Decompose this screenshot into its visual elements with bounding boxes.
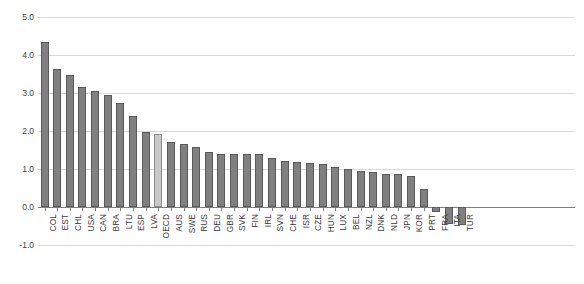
bar (66, 75, 74, 207)
x-tick-mark (323, 207, 324, 211)
bar (104, 95, 112, 207)
bar (91, 91, 99, 207)
x-tick-label: SWE (187, 214, 197, 233)
x-tick-label: NZL (364, 214, 374, 230)
x-tick-label: FIN (250, 214, 260, 228)
x-tick-mark (398, 207, 399, 211)
bar (369, 172, 377, 207)
x-tick-mark (335, 207, 336, 211)
x-tick-label: BEL (351, 214, 361, 230)
x-tick-label: CZE (313, 214, 323, 231)
x-tick-label: DNK (376, 214, 386, 232)
x-tick-mark (70, 207, 71, 211)
x-tick-mark (285, 207, 286, 211)
x-tick-label: SVK (237, 214, 247, 231)
bar-chart: 5.04.03.02.01.00.0-1.0 COLESTCHLUSACANBR… (0, 0, 584, 284)
x-tick-label: JPN (402, 214, 412, 230)
bar (192, 147, 200, 207)
x-tick-mark (247, 207, 248, 211)
x-tick-label: COL (48, 214, 58, 231)
x-tick-label: CAN (98, 214, 108, 232)
bar (180, 144, 188, 207)
bar (142, 132, 150, 207)
x-tick-label: LVA (149, 214, 159, 229)
bar (167, 142, 175, 207)
y-axis-labels: 5.04.03.02.01.00.0-1.0 (0, 17, 34, 245)
x-tick-mark (82, 207, 83, 211)
bar (255, 154, 263, 207)
x-tick-mark (361, 207, 362, 211)
bar (394, 174, 402, 207)
x-tick-label: OECD (161, 214, 171, 238)
x-tick-mark (449, 207, 450, 211)
bar (293, 162, 301, 207)
x-tick-mark (209, 207, 210, 211)
x-tick-label: ITA (452, 214, 462, 227)
y-tick-label: 2.0 (0, 126, 34, 136)
y-tick-label: 4.0 (0, 50, 34, 60)
y-tick-label: 3.0 (0, 88, 34, 98)
bar (407, 176, 415, 207)
x-tick-mark (133, 207, 134, 211)
x-tick-label: LTU (124, 214, 134, 229)
x-tick-mark (196, 207, 197, 211)
bar (78, 87, 86, 207)
x-tick-mark (297, 207, 298, 211)
x-tick-mark (424, 207, 425, 211)
bar (41, 42, 49, 207)
y-tick-label: 1.0 (0, 164, 34, 174)
x-tick-mark (146, 207, 147, 211)
y-tick-label: 0.0 (0, 202, 34, 212)
x-tick-label: ESP (136, 214, 146, 231)
x-tick-mark (234, 207, 235, 211)
x-tick-mark (411, 207, 412, 211)
bar (357, 171, 365, 207)
bar (268, 158, 276, 207)
x-tick-label: LUX (338, 214, 348, 230)
x-axis-ticks (38, 207, 575, 213)
bar (344, 169, 352, 207)
x-tick-label: TUR (465, 214, 475, 231)
x-tick-label: DEU (212, 214, 222, 232)
x-tick-label: PRT (427, 214, 437, 231)
x-tick-mark (436, 207, 437, 211)
x-tick-label: FRA (440, 214, 450, 231)
x-tick-mark (171, 207, 172, 211)
bar (243, 154, 251, 207)
x-tick-mark (95, 207, 96, 211)
x-tick-mark (259, 207, 260, 211)
x-tick-mark (310, 207, 311, 211)
x-tick-mark (158, 207, 159, 211)
bar (382, 174, 390, 207)
x-tick-mark (462, 207, 463, 211)
x-tick-mark (373, 207, 374, 211)
x-tick-mark (348, 207, 349, 211)
x-tick-label: IRL (263, 214, 273, 227)
x-tick-mark (221, 207, 222, 211)
bar (154, 134, 162, 207)
x-tick-label: CHL (73, 214, 83, 231)
x-tick-mark (272, 207, 273, 211)
bar (230, 154, 238, 207)
x-tick-mark (57, 207, 58, 211)
x-tick-label: NLD (389, 214, 399, 231)
x-tick-mark (184, 207, 185, 211)
x-tick-mark (45, 207, 46, 211)
bar (205, 152, 213, 207)
x-tick-label: EST (60, 214, 70, 230)
x-tick-label: KOR (414, 214, 424, 232)
x-tick-label: HUN (326, 214, 336, 232)
x-tick-mark (108, 207, 109, 211)
bar (319, 164, 327, 207)
bar (217, 154, 225, 207)
y-tick-label: 5.0 (0, 12, 34, 22)
bar (420, 189, 428, 207)
x-axis-labels: COLESTCHLUSACANBRALTUESPLVAOECDAUSSWERUS… (38, 214, 575, 284)
x-tick-mark (386, 207, 387, 211)
x-tick-label: BRA (111, 214, 121, 231)
bar (331, 167, 339, 207)
x-tick-mark (120, 207, 121, 211)
x-tick-label: USA (86, 214, 96, 231)
x-tick-label: RUS (199, 214, 209, 232)
bar (53, 69, 61, 207)
